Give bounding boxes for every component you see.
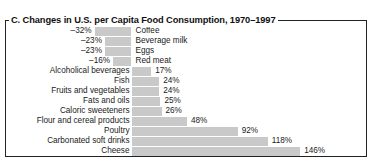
bar-value-label: 25% (164, 96, 180, 106)
bar-category-label: Alcoholical beverages (50, 66, 130, 76)
bar (132, 117, 187, 126)
bar-row: Carbonated soft drinks118% (0, 137, 380, 147)
bar-category-label: Fruits and vegetables (51, 86, 129, 96)
bar-value-label: –32% (71, 26, 92, 36)
bar-value-label: 24% (163, 86, 179, 96)
bar-value-label: 146% (304, 146, 325, 156)
bar-category-label: Coffee (136, 26, 160, 36)
bar-row: Fish24% (0, 76, 380, 86)
bar-category-label: Red meat (136, 56, 172, 66)
bar-category-label: Carbonated soft drinks (47, 136, 129, 146)
bar (132, 127, 238, 136)
bar-category-label: Flour and cereal products (37, 116, 130, 126)
figure-panel-c: C. Changes in U.S. per Capita Food Consu… (0, 0, 380, 162)
bar (105, 37, 132, 46)
bar-row: Beverage milk–23% (0, 36, 380, 46)
bar-row: Fruits and vegetables24% (0, 86, 380, 96)
bar-row: Red meat–16% (0, 56, 380, 66)
bar-value-label: –23% (81, 46, 102, 56)
bar (132, 107, 162, 116)
bar-row: Alcoholical beverages17% (0, 66, 380, 76)
bar-value-label: –23% (81, 36, 102, 46)
bar-row: Eggs–23% (0, 46, 380, 56)
bar-category-label: Caloric sweeteners (60, 106, 130, 116)
bar-row: Fats and oils25% (0, 96, 380, 106)
bar (132, 97, 161, 106)
bar-category-label: Beverage milk (136, 36, 188, 46)
bar-value-label: 24% (163, 76, 179, 86)
bar (113, 57, 131, 66)
bar-value-label: –16% (89, 56, 110, 66)
bar (105, 47, 132, 56)
bar-row: Cheese146% (0, 147, 380, 157)
bar-value-label: 17% (155, 66, 171, 76)
bar (132, 77, 160, 86)
bar-category-label: Cheese (101, 146, 129, 156)
bar (132, 87, 160, 96)
bar (132, 67, 152, 76)
figure-title-container: C. Changes in U.S. per Capita Food Consu… (9, 14, 278, 27)
page-title: C. Changes in U.S. per Capita Food Consu… (11, 14, 275, 27)
bar-category-label: Poultry (104, 126, 129, 136)
bar-row: Coffee–32% (0, 26, 380, 36)
bar-value-label: 118% (272, 136, 292, 146)
bar-value-label: 92% (242, 126, 258, 136)
bar-category-label: Fats and oils (83, 96, 129, 106)
bar (132, 137, 268, 146)
bar (132, 147, 301, 156)
bar-value-label: 48% (191, 116, 207, 126)
bar-category-label: Fish (114, 76, 129, 86)
bar-value-label: 26% (166, 106, 182, 116)
bar (95, 27, 132, 36)
bar-chart-plot-area: Coffee–32%Beverage milk–23%Eggs–23%Red m… (0, 26, 380, 158)
bar-row: Caloric sweeteners26% (0, 106, 380, 116)
bar-category-label: Eggs (136, 46, 155, 56)
bar-row: Flour and cereal products48% (0, 116, 380, 126)
bar-row: Poultry92% (0, 127, 380, 137)
